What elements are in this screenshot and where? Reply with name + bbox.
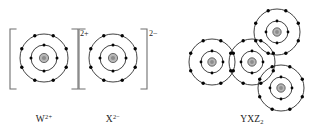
right-bracket-x — [141, 29, 147, 89]
charge-superscript-w: 2+ — [80, 29, 89, 38]
electron-dot — [271, 108, 274, 111]
electron-dot — [56, 57, 59, 60]
electron-dot — [20, 66, 23, 69]
electron-dot — [259, 82, 262, 85]
electron-dot — [242, 39, 245, 42]
electron-dot — [20, 47, 23, 50]
electron-dot — [200, 61, 203, 64]
ion-w-group: 2+ — [10, 29, 89, 89]
electron-dot — [259, 39, 262, 42]
electron-dot — [258, 95, 261, 98]
caption-yxz2-main: YXZ — [240, 114, 260, 124]
electron-dot — [33, 34, 36, 37]
electron-dot — [102, 79, 105, 82]
electron-dot — [125, 57, 128, 60]
electron-dot — [102, 34, 105, 37]
caption-w-charge: 2+ — [45, 113, 52, 120]
electron-dot — [284, 52, 287, 55]
electron-dot — [280, 76, 283, 79]
left-bracket-w — [10, 29, 16, 89]
electron-dot — [89, 66, 92, 69]
nucleus-core — [250, 60, 254, 64]
electron-dot — [189, 69, 192, 72]
electron-dot — [254, 22, 257, 25]
electron-shell-diagram: 2+ 2− — [0, 0, 313, 132]
electron-dot — [254, 39, 257, 42]
caption-x-symbol: X — [106, 114, 113, 124]
nucleus-core — [275, 30, 279, 34]
caption-w: W2+ — [36, 113, 53, 124]
nucleus-core — [111, 56, 115, 60]
electron-dot — [267, 9, 270, 12]
electron-dot — [121, 34, 124, 37]
right-bracket-w — [72, 29, 78, 89]
nucleus-core — [279, 86, 283, 90]
nucleus-core — [210, 60, 214, 64]
electron-dot — [189, 52, 192, 55]
electron-dot — [229, 52, 232, 55]
electron-dot — [288, 108, 291, 111]
electron-dot — [222, 61, 225, 64]
electron-dot — [211, 50, 214, 53]
electron-dot — [297, 39, 300, 42]
electron-dot — [301, 95, 304, 98]
electron-dot — [258, 78, 261, 81]
caption-w-symbol: W — [36, 114, 45, 124]
electron-dot — [280, 98, 283, 101]
electron-dot — [242, 82, 245, 85]
electron-dot — [272, 69, 275, 72]
electron-dot — [251, 72, 254, 75]
molecule-yxz2-group — [189, 9, 304, 111]
electron-dot — [43, 70, 46, 73]
electron-dot — [33, 79, 36, 82]
electron-dot — [211, 72, 214, 75]
caption-yxz2-subscript: 2 — [260, 118, 263, 125]
electron-dot — [89, 47, 92, 50]
caption-yxz2: YXZ2 — [240, 114, 264, 125]
caption-x-charge: 2− — [113, 113, 120, 120]
charge-superscript-x: 2− — [149, 29, 158, 38]
electron-dot — [202, 39, 205, 42]
electron-dot — [43, 44, 46, 47]
electron-dot — [265, 31, 268, 34]
ion-x-group: 2− — [79, 29, 158, 89]
electron-dot — [262, 61, 265, 64]
figure-canvas: 2+ 2− — [0, 0, 313, 132]
electron-dot — [112, 70, 115, 73]
electron-dot — [272, 52, 275, 55]
electron-dot — [121, 79, 124, 82]
electron-dot — [284, 9, 287, 12]
electron-dot — [269, 87, 272, 90]
caption-x: X2− — [106, 113, 120, 124]
nucleus-core — [42, 56, 46, 60]
electron-dot — [219, 39, 222, 42]
electron-dot — [267, 52, 270, 55]
electron-dot — [251, 50, 254, 53]
left-bracket-x — [79, 29, 85, 89]
electron-dot — [219, 82, 222, 85]
electron-dot — [229, 69, 232, 72]
electron-dot — [134, 66, 137, 69]
electron-dot — [288, 65, 291, 68]
electron-dot — [52, 34, 55, 37]
electron-dot — [30, 57, 33, 60]
electron-dot — [65, 47, 68, 50]
electron-dot — [52, 79, 55, 82]
electron-dot — [271, 65, 274, 68]
electron-dot — [276, 42, 279, 45]
electron-dot — [301, 78, 304, 81]
electron-dot — [65, 66, 68, 69]
electron-dot — [297, 22, 300, 25]
electron-dot — [112, 44, 115, 47]
electron-dot — [202, 82, 205, 85]
electron-dot — [276, 20, 279, 23]
electron-dot — [99, 57, 102, 60]
electron-dot — [287, 31, 290, 34]
electron-dot — [134, 47, 137, 50]
electron-dot — [291, 87, 294, 90]
electron-dot — [240, 61, 243, 64]
